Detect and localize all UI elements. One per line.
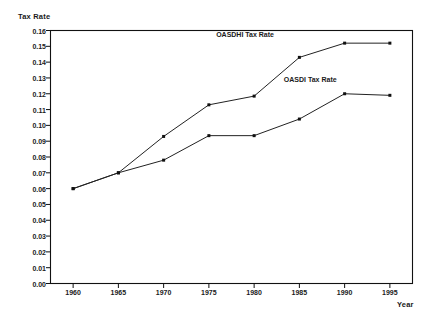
plot-frame bbox=[51, 31, 413, 284]
series-line bbox=[73, 43, 390, 188]
data-series-lines bbox=[72, 42, 392, 190]
series-data-point bbox=[207, 103, 210, 106]
y-axis-ticks bbox=[46, 31, 51, 284]
x-tick-label: 1970 bbox=[156, 289, 172, 296]
series-data-point bbox=[388, 42, 391, 45]
series-data-point bbox=[207, 134, 210, 137]
series-data-point bbox=[253, 95, 256, 98]
series-data-point bbox=[298, 56, 301, 59]
plot-frame-rect bbox=[51, 31, 413, 284]
x-tick-label: 1985 bbox=[292, 289, 308, 296]
x-tick-label: 1965 bbox=[111, 289, 127, 296]
x-tick-label: 1960 bbox=[65, 289, 81, 296]
series-data-point bbox=[253, 134, 256, 137]
plot-area bbox=[0, 0, 436, 319]
series-data-point bbox=[343, 42, 346, 45]
x-axis-ticks bbox=[73, 284, 390, 289]
chart-container: Tax Rate Year 0.000.010.020.030.040.050.… bbox=[0, 0, 436, 319]
series-data-point bbox=[117, 171, 120, 174]
x-tick-label: 1990 bbox=[337, 289, 353, 296]
series-annotation-label: OASDHI Tax Rate bbox=[216, 31, 274, 38]
series-data-point bbox=[343, 92, 346, 95]
series-data-point bbox=[388, 94, 391, 97]
series-annotation-label: OASDI Tax Rate bbox=[284, 76, 337, 83]
x-tick-label: 1980 bbox=[246, 289, 262, 296]
series-line bbox=[73, 94, 390, 189]
series-data-point bbox=[162, 135, 165, 138]
x-tick-label: 1975 bbox=[201, 289, 217, 296]
x-tick-label: 1995 bbox=[382, 289, 398, 296]
series-data-point bbox=[162, 159, 165, 162]
series-data-point bbox=[298, 118, 301, 121]
series-data-point bbox=[72, 187, 75, 190]
